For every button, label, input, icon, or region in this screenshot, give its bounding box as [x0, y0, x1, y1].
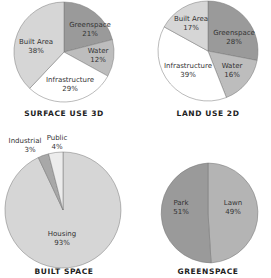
- chart-title: LAND USE 2D: [177, 109, 240, 118]
- pct-infrastructure: 39%: [180, 71, 196, 79]
- pct-lawn: 49%: [225, 208, 241, 216]
- label-park: Park: [173, 199, 189, 207]
- pct-water: 12%: [90, 56, 106, 64]
- pie-built-space: Industrial 3% Public 4% Housing 93% BUIL…: [5, 134, 121, 276]
- label-industrial: Industrial: [9, 137, 42, 145]
- chart-title: SURFACE USE 3D: [24, 109, 104, 118]
- label-greenspace: Greenspace: [69, 21, 111, 29]
- label-housing: Housing: [48, 230, 76, 238]
- pct-industrial: 3%: [24, 146, 35, 154]
- label-lawn: Lawn: [224, 199, 242, 207]
- label-infrastructure: Infrastructure: [164, 62, 212, 70]
- pie-greenspace: Park 51% Lawn 49% GREENSPACE: [161, 163, 258, 276]
- pct-built-area: 17%: [183, 24, 199, 32]
- label-water: Water: [222, 62, 243, 70]
- label-built-area: Built Area: [19, 38, 53, 46]
- label-infrastructure: Infrastructure: [46, 76, 94, 84]
- pie-land-use-2d: Built Area 17% Greenspace 28% Water 16% …: [158, 1, 258, 118]
- pct-park: 51%: [173, 208, 189, 216]
- pct-greenspace: 28%: [226, 38, 242, 46]
- pct-housing: 93%: [54, 239, 70, 247]
- chart-title: GREENSPACE: [177, 267, 238, 276]
- label-built-area: Built Area: [174, 15, 208, 23]
- pct-infrastructure: 29%: [62, 85, 78, 93]
- label-water: Water: [88, 47, 109, 55]
- pct-built-area: 38%: [28, 47, 44, 55]
- label-public: Public: [47, 134, 68, 142]
- pct-greenspace: 21%: [82, 30, 98, 38]
- pie-surface-use-3d: Greenspace 21% Water 12% Infrastructure …: [14, 2, 114, 118]
- pct-public: 4%: [51, 143, 62, 151]
- pct-water: 16%: [224, 71, 240, 79]
- chart-title: BUILT SPACE: [34, 267, 93, 276]
- pie-chart-grid: Greenspace 21% Water 12% Infrastructure …: [0, 0, 271, 278]
- label-greenspace: Greenspace: [213, 29, 255, 37]
